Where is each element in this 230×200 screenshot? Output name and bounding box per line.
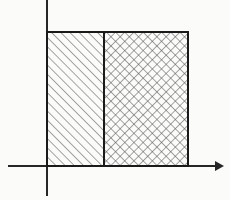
right-region-crosshatch-fill: [105, 33, 187, 165]
coordinate-diagram: [0, 0, 230, 200]
figure-canvas: [0, 0, 230, 200]
left-region-hatch-fill: [48, 33, 103, 165]
